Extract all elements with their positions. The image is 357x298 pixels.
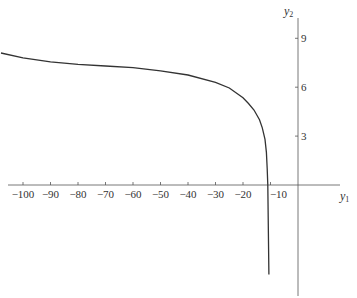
y-ticks: 369 [295,32,307,142]
chart-plot: −100−90−80−70−60−50−40−30−20−10 369 y1 y… [0,0,357,298]
x-tick-label: −50 [152,188,170,200]
y-tick-label: 9 [301,32,307,44]
x-tick-label: −70 [97,188,115,200]
x-axis-title: y1 [339,189,349,204]
x-tick-label: −60 [124,188,142,200]
y-tick-label: 3 [301,130,307,142]
x-tick-label: −10 [270,188,288,200]
y-tick-label: 6 [301,81,307,93]
x-tick-label: −90 [42,188,60,200]
x-tick-label: −30 [207,188,225,200]
data-curve [1,53,269,275]
x-tick-label: −40 [179,188,197,200]
y-axis-title: y2 [283,4,293,19]
x-tick-label: −100 [12,188,35,200]
x-tick-label: −80 [69,188,87,200]
x-tick-label: −20 [234,188,252,200]
